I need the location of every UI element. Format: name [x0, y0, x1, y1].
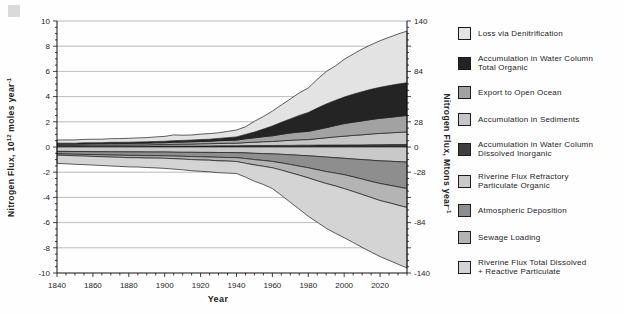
left-tick-label: -10 — [38, 269, 50, 278]
x-tick-label: 1960 — [263, 281, 281, 290]
left-axis-title-sup: 12 — [6, 134, 12, 141]
legend-label-line: Loss via Denitrification — [478, 29, 563, 38]
left-axis-title-text: Nitrogen Flux, 10 — [6, 141, 16, 217]
right-tick-label: 140 — [414, 17, 428, 26]
right-tick-label: -140 — [414, 269, 431, 278]
x-tick-label: 1920 — [192, 281, 210, 290]
scan-artifact — [8, 5, 20, 17]
legend-label-line: Accumulation in Sediments — [478, 115, 580, 124]
left-tick-label: -2 — [43, 168, 51, 177]
legend-label-line: Dissolved Inorganic — [478, 149, 593, 158]
legend-swatch-icon — [458, 57, 471, 70]
legend-item-accumulation-water-column-total-organic: Accumulation in Water ColumnTotal Organi… — [458, 54, 593, 72]
legend-label-line: Riverine Flux Refractory — [478, 172, 569, 181]
left-tick-label: -4 — [43, 193, 51, 202]
legend-swatch-icon — [458, 204, 471, 217]
legend-label-line: Riverine Flux Total Dissolved — [478, 258, 586, 267]
legend-item-sewage-loading: Sewage Loading — [458, 231, 593, 244]
legend-swatch-icon — [458, 113, 471, 126]
legend-item-atmospheric-deposition: Atmospheric Deposition — [458, 204, 593, 217]
legend-item-riverine-flux-refractory-particulate-organic: Riverine Flux RefractoryParticulate Orga… — [458, 172, 593, 190]
left-tick-label: 6 — [46, 67, 51, 76]
right-tick-label: -28 — [414, 168, 426, 177]
legend-swatch-icon — [458, 27, 471, 40]
legend-swatch-icon — [458, 261, 471, 274]
legend: Loss via DenitrificationAccumulation in … — [458, 27, 593, 276]
legend-label: Accumulation in Sediments — [478, 115, 580, 124]
x-tick-label: 1840 — [48, 281, 66, 290]
right-tick-label: 0 — [414, 143, 419, 152]
right-tick-label: 28 — [414, 118, 423, 127]
legend-label-line: Accumulation in Water Column — [478, 140, 593, 149]
legend-label: Riverine Flux Total Dissolved+ Reactive … — [478, 258, 586, 276]
legend-swatch-icon — [458, 231, 471, 244]
x-tick-label: 1880 — [120, 281, 138, 290]
x-tick-label: 1900 — [156, 281, 174, 290]
left-tick-label: 2 — [46, 118, 51, 127]
legend-item-export-to-open-ocean: Export to Open Ocean — [458, 86, 593, 99]
right-tick-label: 84 — [414, 67, 423, 76]
legend-swatch-icon — [458, 175, 471, 188]
right-axis-title-sup: -1 — [446, 208, 452, 213]
legend-swatch-icon — [458, 86, 471, 99]
legend-label-line: + Reactive Particulate — [478, 267, 586, 276]
right-tick-label: -84 — [414, 218, 426, 227]
left-tick-label: 4 — [46, 92, 51, 101]
right-axis-title-text: Nitrogen Flux, Mtons year — [442, 94, 452, 208]
legend-label: Sewage Loading — [478, 233, 540, 242]
left-tick-label: -8 — [43, 244, 51, 253]
left-tick-label: 8 — [46, 42, 51, 51]
left-axis-title: Nitrogen Flux, 1012 moles year-1 — [6, 49, 17, 245]
legend-swatch-icon — [458, 143, 471, 156]
legend-label: Accumulation in Water ColumnDissolved In… — [478, 140, 593, 158]
legend-label-line: Particulate Organic — [478, 181, 569, 190]
left-tick-label: -6 — [43, 218, 51, 227]
left-tick-label: 10 — [41, 17, 50, 26]
legend-item-accumulation-in-sediments: Accumulation in Sediments — [458, 113, 593, 126]
legend-label: Atmospheric Deposition — [478, 206, 567, 215]
legend-item-loss-via-denitrification: Loss via Denitrification — [458, 27, 593, 40]
legend-item-accumulation-water-column-dissolved-inorganic: Accumulation in Water ColumnDissolved In… — [458, 140, 593, 158]
legend-label: Accumulation in Water ColumnTotal Organi… — [478, 54, 593, 72]
legend-label-line: Total Organic — [478, 63, 593, 72]
legend-label-line: Export to Open Ocean — [478, 88, 562, 97]
legend-label: Loss via Denitrification — [478, 29, 563, 38]
x-axis-title: Year — [57, 294, 379, 304]
left-axis-title-sup2: -1 — [6, 78, 12, 83]
nitrogen-flux-budget-figure: 1086420-2-4-6-8-1014084280-28-84-1401840… — [0, 0, 624, 314]
legend-item-riverine-flux-total-dissolved-reactive-particulate: Riverine Flux Total Dissolved+ Reactive … — [458, 258, 593, 276]
legend-label: Export to Open Ocean — [478, 88, 562, 97]
x-tick-label: 1940 — [228, 281, 246, 290]
right-axis-title: Nitrogen Flux, Mtons year-1 — [442, 56, 453, 250]
x-tick-label: 2000 — [335, 281, 353, 290]
legend-label-line: Atmospheric Deposition — [478, 206, 567, 215]
x-tick-label: 2020 — [371, 281, 389, 290]
left-axis-title-text2: moles year — [6, 83, 16, 134]
legend-label-line: Accumulation in Water Column — [478, 54, 593, 63]
left-tick-label: 0 — [46, 143, 51, 152]
legend-label: Riverine Flux RefractoryParticulate Orga… — [478, 172, 569, 190]
x-tick-label: 1860 — [84, 281, 102, 290]
x-tick-label: 1980 — [299, 281, 317, 290]
legend-label-line: Sewage Loading — [478, 233, 540, 242]
